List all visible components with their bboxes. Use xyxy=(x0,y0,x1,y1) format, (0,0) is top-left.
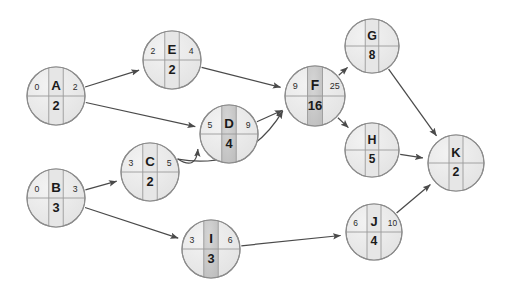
edge-A-to-D xyxy=(86,103,196,127)
edge-B-to-I xyxy=(85,208,178,239)
node-earliest-start-label: 3 xyxy=(189,235,194,245)
node-earliest-finish-label: 4 xyxy=(189,46,194,56)
edge-H-to-K xyxy=(400,154,423,158)
activity-network-diagram: A202E224D459C235B303I336F16925G8H5J4610K… xyxy=(0,0,513,293)
node-duration-label: 2 xyxy=(453,165,460,179)
node-K[interactable]: K2 xyxy=(428,135,484,191)
node-duration-label: 2 xyxy=(168,62,175,77)
node-earliest-start-label: 3 xyxy=(128,158,133,168)
node-I[interactable]: I336 xyxy=(182,220,240,278)
node-A[interactable]: A202 xyxy=(27,67,85,125)
edge-A-to-E xyxy=(85,70,139,87)
node-name-label: K xyxy=(451,145,461,160)
node-duration-label: 2 xyxy=(52,98,59,113)
node-earliest-start-label: 0 xyxy=(34,184,39,194)
node-name-label: A xyxy=(51,78,61,93)
edge-F-to-H xyxy=(338,118,349,128)
diagram-canvas: A202E224D459C235B303I336F16925G8H5J4610K… xyxy=(0,0,513,293)
node-earliest-finish-label: 10 xyxy=(388,218,398,228)
node-duration-label: 8 xyxy=(369,48,376,62)
node-H[interactable]: H5 xyxy=(345,123,399,177)
node-duration-label: 3 xyxy=(52,200,59,215)
edge-I-to-J xyxy=(241,236,340,246)
node-name-label: J xyxy=(370,214,377,229)
edge-G-to-K xyxy=(389,69,437,136)
node-duration-label: 4 xyxy=(371,234,378,248)
node-earliest-start-label: 5 xyxy=(207,120,212,130)
node-earliest-start-label: 6 xyxy=(353,218,358,228)
node-C[interactable]: C235 xyxy=(121,143,179,201)
node-duration-label: 4 xyxy=(225,136,233,151)
node-E[interactable]: E224 xyxy=(143,31,201,89)
node-name-label: G xyxy=(367,29,377,43)
node-duration-label: 16 xyxy=(308,98,323,113)
node-D[interactable]: D459 xyxy=(200,105,258,163)
nodes-layer: A202E224D459C235B303I336F16925G8H5J4610K… xyxy=(27,19,484,278)
node-earliest-finish-label: 6 xyxy=(228,235,233,245)
node-earliest-start-label: 0 xyxy=(34,82,39,92)
node-G[interactable]: G8 xyxy=(345,19,399,73)
node-B[interactable]: B303 xyxy=(27,169,85,227)
node-earliest-finish-label: 3 xyxy=(73,184,78,194)
edge-J-to-K xyxy=(397,185,431,213)
node-duration-label: 3 xyxy=(207,251,214,266)
node-F[interactable]: F16925 xyxy=(285,66,345,126)
node-duration-label: 5 xyxy=(369,152,376,166)
node-earliest-finish-label: 2 xyxy=(73,82,78,92)
edge-D-to-F xyxy=(257,110,283,121)
edge-B-to-C xyxy=(85,181,116,190)
node-name-label: C xyxy=(145,154,155,169)
edge-E-to-F xyxy=(202,67,281,87)
node-earliest-finish-label: 25 xyxy=(330,81,340,91)
node-earliest-finish-label: 9 xyxy=(246,120,251,130)
edge-F-to-G xyxy=(339,67,348,75)
node-name-label: D xyxy=(224,116,234,131)
node-name-label: E xyxy=(168,42,177,57)
node-name-label: H xyxy=(368,133,377,147)
node-name-label: B xyxy=(51,180,61,195)
node-J[interactable]: J4610 xyxy=(346,204,402,260)
node-name-label: F xyxy=(311,78,319,93)
node-earliest-start-label: 9 xyxy=(293,81,298,91)
node-name-label: I xyxy=(209,231,213,246)
node-duration-label: 2 xyxy=(146,174,153,189)
node-earliest-finish-label: 5 xyxy=(167,158,172,168)
node-earliest-start-label: 2 xyxy=(150,46,155,56)
